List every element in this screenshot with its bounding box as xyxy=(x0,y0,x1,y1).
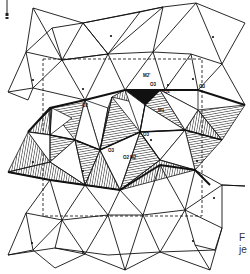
label-o3-a: O3 xyxy=(150,82,157,87)
crystal-structure-diagram: M2' O3 O2 M1 O3 O3 O2 O3 M2 O2 xyxy=(0,0,250,274)
label-m2: M2 xyxy=(130,155,137,160)
label-o2-a: O2 xyxy=(164,89,171,94)
label-o3-b: O3 xyxy=(199,84,206,89)
label-o3-c: O3 xyxy=(143,132,150,137)
label-o2-c: O2 xyxy=(123,155,130,160)
label-m2-prime: M2' xyxy=(143,73,150,78)
label-o3-d: O3 xyxy=(108,148,115,153)
orientation-arrow-icon xyxy=(6,0,9,19)
label-o2-b: O2 xyxy=(82,103,89,108)
figure-caption: F je xyxy=(239,232,247,256)
label-m1: M1 xyxy=(158,108,165,113)
caption-line-2: je xyxy=(239,244,247,256)
caption-line-1: F xyxy=(239,232,247,244)
